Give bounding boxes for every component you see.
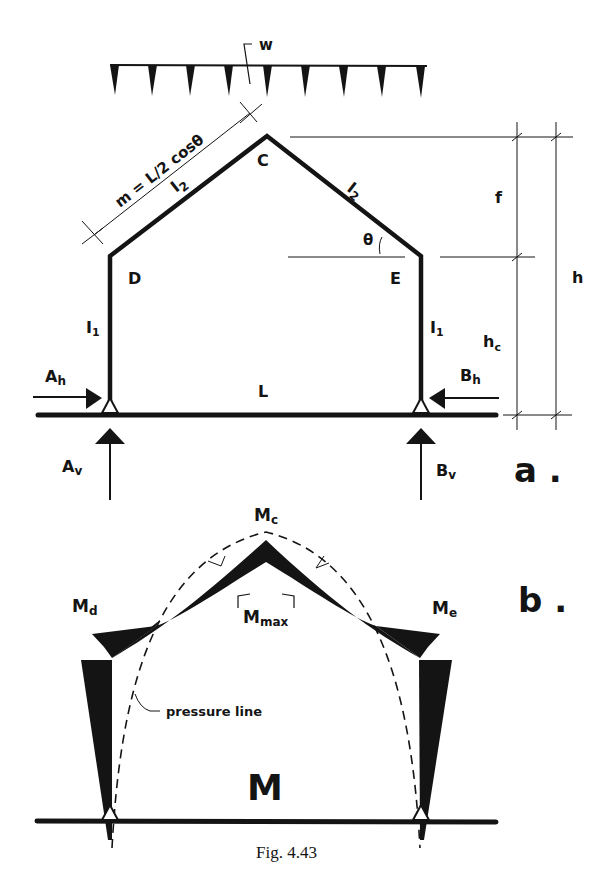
svg-text:Bv: Bv bbox=[436, 461, 456, 482]
total-height-label-h: h bbox=[572, 268, 583, 287]
reaction-ah-arrow-icon bbox=[33, 388, 102, 409]
svg-text:Mc: Mc bbox=[254, 505, 278, 527]
svg-text:I2: I2 bbox=[342, 178, 367, 204]
member-label-column-left: I1 bbox=[86, 318, 100, 339]
moment-label-md: Md bbox=[72, 596, 98, 618]
member-label-rafter-right: I2 bbox=[342, 178, 367, 204]
reaction-bv-arrow-icon bbox=[406, 428, 436, 500]
mmax-brackets bbox=[238, 594, 294, 608]
node-label-d: D bbox=[128, 269, 141, 288]
part-a-frame-diagram: w m = L/2 cosθ C D E I2 I2 I1 I1 bbox=[33, 36, 583, 500]
node-label-e: E bbox=[390, 269, 401, 288]
svg-text:Md: Md bbox=[72, 596, 98, 618]
column-height-label: hc bbox=[483, 332, 501, 354]
member-label-column-right: I1 bbox=[430, 318, 444, 339]
svg-text:Ah: Ah bbox=[45, 367, 66, 388]
moment-diagram-label: M bbox=[247, 767, 283, 808]
svg-text:I1: I1 bbox=[430, 318, 444, 339]
pressure-line-leader bbox=[135, 694, 160, 711]
hinge-support-left-icon bbox=[102, 398, 118, 413]
ground-line-b bbox=[37, 821, 496, 822]
rafter-length-label: m = L/2 cosθ bbox=[111, 131, 207, 212]
reaction-ah-label: Ah bbox=[45, 367, 66, 388]
svg-text:θ: θ bbox=[363, 231, 373, 249]
vertical-dimensions bbox=[512, 122, 561, 430]
part-b-label: b . bbox=[518, 580, 567, 620]
moment-label-me: Me bbox=[432, 598, 457, 620]
reaction-bh-label: Bh bbox=[460, 366, 481, 387]
reaction-av-label: Av bbox=[62, 457, 82, 478]
figure-caption: Fig. 4.43 bbox=[256, 843, 317, 862]
load-arrows-icon bbox=[110, 65, 425, 98]
span-label-l: L bbox=[258, 382, 268, 401]
reaction-bh-arrow-icon bbox=[429, 388, 499, 409]
svg-text:Mmax: Mmax bbox=[243, 607, 289, 629]
hinge-support-right-icon bbox=[413, 398, 429, 413]
svg-text:I1: I1 bbox=[86, 318, 100, 339]
rise-label-f: f bbox=[495, 188, 503, 207]
reaction-av-arrow-icon bbox=[95, 428, 125, 500]
moment-label-mc: Mc bbox=[254, 505, 278, 527]
node-label-c: C bbox=[257, 151, 269, 170]
rafter-dimension: m = L/2 cosθ bbox=[82, 102, 262, 244]
distributed-load: w bbox=[110, 36, 427, 98]
pressure-line-label: pressure line bbox=[166, 704, 262, 719]
svg-text:Bh: Bh bbox=[460, 366, 481, 387]
moment-label-mmax: Mmax bbox=[243, 607, 289, 629]
reaction-bv-label: Bv bbox=[436, 461, 456, 482]
svg-text:Me: Me bbox=[432, 598, 457, 620]
load-label-w: w bbox=[259, 36, 273, 54]
svg-text:Av: Av bbox=[62, 457, 82, 478]
part-b-moment-diagram: pressure line Mc Md Me Mmax M b . bbox=[37, 505, 567, 848]
gable-frame-figure: w m = L/2 cosθ C D E I2 I2 I1 I1 bbox=[0, 0, 615, 887]
angle-theta: θ bbox=[288, 231, 405, 257]
part-a-label: a . bbox=[514, 450, 562, 490]
svg-text:hc: hc bbox=[483, 332, 501, 354]
